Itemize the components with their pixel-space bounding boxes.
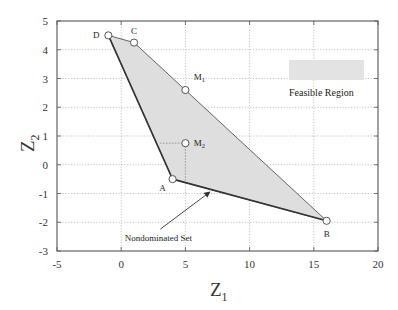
- nondominated-set-label: Nondominated Set: [125, 233, 193, 243]
- point-label-c: C: [131, 26, 137, 36]
- legend-label-feasible-region: Feasible Region: [289, 87, 354, 98]
- point-label-b: B: [324, 229, 330, 239]
- point-m1: [182, 86, 189, 93]
- point-b: [323, 217, 330, 224]
- y-tick-label: 4: [43, 44, 49, 56]
- y-tick-label: 1: [43, 130, 49, 142]
- y-axis-label: Z2: [17, 134, 42, 152]
- legend: Feasible Region: [289, 60, 364, 98]
- y-tick-label: 2: [43, 101, 49, 113]
- point-d: [105, 32, 112, 39]
- y-tick-label: 0: [43, 159, 49, 171]
- x-tick-label: 5: [183, 258, 189, 270]
- x-tick-label: -5: [52, 258, 62, 270]
- point-label-a: A: [159, 183, 166, 193]
- x-tick-label: 0: [118, 258, 124, 270]
- nondominated-set-annotation: Nondominated Set: [125, 192, 210, 243]
- point-a: [169, 176, 176, 183]
- x-tick-label: 20: [373, 258, 385, 270]
- y-tick-label: -1: [39, 188, 48, 200]
- y-tick-label: 3: [43, 73, 49, 85]
- x-tick-label: 15: [308, 258, 320, 270]
- x-tick-label: 10: [244, 258, 256, 270]
- point-label-d: D: [93, 30, 100, 40]
- y-tick-label: -3: [39, 245, 49, 257]
- point-c: [130, 39, 137, 46]
- y-tick-label: 5: [43, 15, 49, 27]
- x-axis-label: Z1: [210, 279, 228, 304]
- y-tick-label: -2: [39, 216, 48, 228]
- point-m2: [182, 140, 189, 147]
- point-label-m1: M1: [194, 72, 205, 83]
- feasible-region-chart: -505101520-3-2-1012345 Feasible Region N…: [0, 0, 398, 310]
- legend-swatch-feasible-region: [289, 60, 364, 80]
